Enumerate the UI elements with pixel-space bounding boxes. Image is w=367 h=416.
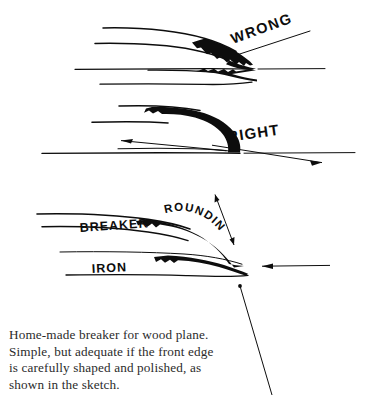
label-breaker: BREAKER: [79, 216, 149, 235]
svg-text:WRONG: WRONG: [229, 10, 295, 47]
right-direction-arrow: [212, 145, 322, 166]
label-right: RIGHT: [226, 121, 281, 145]
panel-right: RIGHT: [42, 106, 355, 166]
figure-page: WRONG: [0, 0, 367, 416]
wrong-iron-lower-edge: [100, 82, 252, 84]
svg-text:RIGHT: RIGHT: [226, 121, 281, 145]
wrong-reference-line: [75, 69, 252, 70]
panel-wrong: WRONG: [75, 10, 325, 85]
right-shaving-arrow: [121, 139, 236, 152]
cutting-edge-arrow: [262, 264, 330, 269]
detail-iron-top-edge: [60, 252, 242, 265]
svg-text:BREAKER: BREAKER: [79, 216, 149, 235]
svg-text:IRON: IRON: [91, 260, 127, 276]
right-breaker-lower-edge: [92, 122, 168, 123]
wrong-iron-body: [196, 69, 257, 82]
label-wrong: WRONG: [229, 10, 295, 47]
right-reference-line: [42, 153, 240, 154]
label-iron: IRON: [91, 260, 127, 276]
figure-caption: Home-made breaker for wood plane. Simple…: [9, 327, 259, 393]
